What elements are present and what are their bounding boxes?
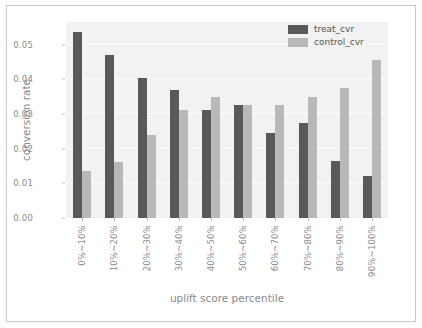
- x-tick-label: 10%~20%: [109, 225, 119, 271]
- x-tick-mark: [275, 218, 276, 221]
- x-tick-label: 20%~30%: [142, 225, 152, 271]
- bar-group: [195, 22, 227, 218]
- bar-group: [66, 22, 98, 218]
- chart-figure: conversion rate 0.000.010.020.030.040.05…: [0, 0, 422, 328]
- bar-treat_cvr: [234, 105, 243, 218]
- bar-control_cvr: [275, 105, 284, 218]
- bar-control_cvr: [147, 135, 156, 218]
- x-tick-label: 70%~80%: [303, 225, 313, 271]
- legend-swatch-treat-icon: [288, 25, 308, 34]
- bar-group: [163, 22, 195, 218]
- bar-treat_cvr: [202, 110, 211, 218]
- x-tick-mark: [114, 218, 115, 221]
- x-tick-label: 30%~40%: [174, 225, 184, 271]
- x-axis-label: uplift score percentile: [66, 292, 388, 304]
- x-tick: 70%~80%: [291, 218, 323, 288]
- bar-treat_cvr: [331, 161, 340, 218]
- bar-control_cvr: [243, 105, 252, 218]
- x-tick-mark: [340, 218, 341, 221]
- bar-treat_cvr: [363, 176, 372, 218]
- x-tick-mark: [308, 218, 309, 221]
- x-tick-label: 60%~70%: [270, 225, 280, 271]
- y-tick-label: 0.01: [13, 178, 33, 188]
- y-tick-mark: [62, 148, 65, 149]
- legend-label-control: control_cvr: [314, 37, 364, 47]
- bar-treat_cvr: [73, 32, 82, 218]
- y-tick-label: 0.04: [13, 74, 33, 84]
- x-tick: 80%~90%: [324, 218, 356, 288]
- bar-control_cvr: [82, 171, 91, 218]
- bar-group: [291, 22, 323, 218]
- y-tick-mark: [62, 113, 65, 114]
- x-axis-ticks: 0%~10%10%~20%20%~30%30%~40%40%~50%50%~60…: [66, 218, 388, 288]
- x-tick: 50%~60%: [227, 218, 259, 288]
- x-tick-label: 50%~60%: [238, 225, 248, 271]
- x-tick-mark: [211, 218, 212, 221]
- x-tick-mark: [82, 218, 83, 221]
- bar-group: [227, 22, 259, 218]
- bar-control_cvr: [308, 97, 317, 218]
- x-tick-mark: [372, 218, 373, 221]
- x-tick-label: 90%~100%: [367, 225, 377, 277]
- x-tick: 40%~50%: [195, 218, 227, 288]
- legend-item-control: control_cvr: [288, 37, 364, 47]
- y-tick-mark: [62, 79, 65, 80]
- x-tick: 20%~30%: [130, 218, 162, 288]
- legend-swatch-control-icon: [288, 38, 308, 47]
- bar-control_cvr: [179, 110, 188, 218]
- bar-group: [130, 22, 162, 218]
- y-tick-label: 0.00: [13, 213, 33, 223]
- y-tick-label: 0.05: [13, 40, 33, 50]
- x-tick: 10%~20%: [98, 218, 130, 288]
- bar-group: [324, 22, 356, 218]
- chart-legend: treat_cvr control_cvr: [288, 24, 364, 47]
- bar-treat_cvr: [299, 123, 308, 218]
- bar-treat_cvr: [138, 78, 147, 218]
- bar-treat_cvr: [105, 55, 114, 218]
- bar-group: [98, 22, 130, 218]
- legend-label-treat: treat_cvr: [314, 24, 354, 34]
- x-tick-mark: [179, 218, 180, 221]
- x-tick-mark: [147, 218, 148, 221]
- bar-group: [356, 22, 388, 218]
- x-tick: 60%~70%: [259, 218, 291, 288]
- plot-area: [66, 22, 388, 218]
- bar-treat_cvr: [170, 90, 179, 218]
- y-tick-mark: [62, 44, 65, 45]
- bar-control_cvr: [114, 162, 123, 218]
- bar-control_cvr: [340, 88, 349, 218]
- x-tick-label: 80%~90%: [335, 225, 345, 271]
- x-tick-label: 40%~50%: [206, 225, 216, 271]
- y-tick-mark: [62, 218, 65, 219]
- bar-control_cvr: [372, 60, 381, 218]
- x-tick-label: 0%~10%: [77, 225, 87, 266]
- y-tick-mark: [62, 183, 65, 184]
- x-tick: 0%~10%: [66, 218, 98, 288]
- bar-treat_cvr: [266, 133, 275, 218]
- x-tick: 90%~100%: [356, 218, 388, 288]
- legend-item-treat: treat_cvr: [288, 24, 364, 34]
- y-tick-label: 0.02: [13, 144, 33, 154]
- x-tick-mark: [243, 218, 244, 221]
- x-tick: 30%~40%: [163, 218, 195, 288]
- bar-group: [259, 22, 291, 218]
- bar-control_cvr: [211, 97, 220, 218]
- bar-series-container: [66, 22, 388, 218]
- y-tick-label: 0.03: [13, 109, 33, 119]
